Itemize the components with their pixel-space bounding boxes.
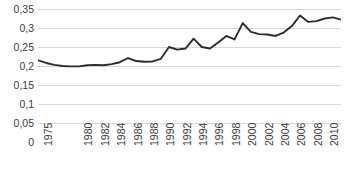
x-tick-label: 1980 — [83, 123, 94, 146]
x-axis: 1975198019821984198619881990199219941996… — [0, 0, 345, 183]
x-tick-label: 1994 — [198, 123, 209, 146]
x-tick-label: 1998 — [231, 123, 242, 146]
x-tick-label: 1986 — [133, 123, 144, 146]
x-tick-label: 2004 — [280, 123, 291, 146]
line-chart: 00,050,10,150,20,250,30,35 1975198019821… — [0, 0, 345, 183]
x-tick-label: 2008 — [313, 123, 324, 146]
x-tick-label: 1990 — [165, 123, 176, 146]
x-tick-label: 1984 — [116, 123, 127, 146]
x-tick-label: 1996 — [214, 123, 225, 146]
x-tick-label: 2000 — [247, 123, 258, 146]
x-tick-label: 1982 — [100, 123, 111, 146]
x-tick-label: 2002 — [264, 123, 275, 146]
x-tick-label: 1975 — [43, 123, 54, 146]
x-tick-label: 1988 — [149, 123, 160, 146]
x-tick-label: 2006 — [296, 123, 307, 146]
x-tick-label: 2010 — [329, 123, 340, 146]
x-tick-label: 1992 — [182, 123, 193, 146]
